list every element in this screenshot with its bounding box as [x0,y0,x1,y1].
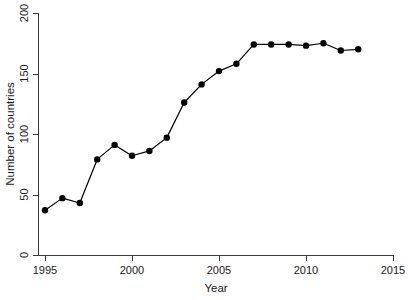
line-chart-canvas: 050100150200 Number of countries 1995200… [0,0,408,300]
data-point [251,41,257,47]
y-tick-label: 100 [18,125,30,143]
y-tick-label: 150 [18,64,30,82]
data-point [338,47,344,53]
data-point [181,99,187,105]
data-point [355,46,361,52]
y-axis-title: Number of countries [4,82,16,186]
data-point [268,41,274,47]
data-point [285,41,291,47]
x-tick-label: 2005 [207,264,231,276]
data-point [303,42,309,48]
data-point [111,142,117,148]
y-tick-label: 50 [18,188,30,200]
chart-figure: 050100150200 Number of countries 1995200… [0,0,408,300]
data-point [164,134,170,140]
x-tick-label: 1995 [33,264,57,276]
data-point [42,207,48,213]
data-point [59,195,65,201]
data-point [94,156,100,162]
x-axis-title: Year [204,282,227,294]
x-tick-label: 2010 [294,264,318,276]
data-point [216,68,222,74]
data-point [198,81,204,87]
data-point [233,61,239,67]
data-point [129,153,135,159]
data-point [77,200,83,206]
y-tick-label: 200 [18,4,30,22]
data-point [146,148,152,154]
x-tick-label: 2000 [120,264,144,276]
x-tick-label: 2015 [381,264,405,276]
y-tick-label: 0 [18,252,30,258]
data-point [320,40,326,46]
